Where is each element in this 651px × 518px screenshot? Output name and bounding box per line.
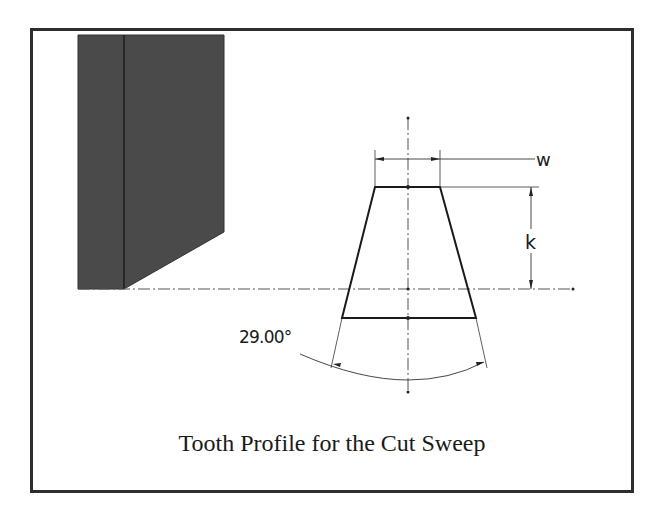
gear-blank-section [78, 35, 224, 289]
left-angle-extension [331, 318, 342, 368]
centerline-top-point [407, 117, 410, 120]
k-arrow-bottom [529, 280, 533, 289]
bottom-midpoint [406, 316, 410, 320]
top-midpoint [406, 185, 410, 189]
center-intersection [407, 288, 410, 291]
right-angle-extension [476, 318, 487, 368]
centerline-end-point [572, 288, 575, 291]
w-arrow-right [431, 157, 440, 161]
angle-dimension-label: 29.00° [239, 327, 291, 347]
k-dimension-label: k [525, 231, 536, 253]
angle-dimension-arc [300, 354, 484, 380]
w-dimension-label: w [536, 149, 551, 170]
figure-caption: Tooth Profile for the Cut Sweep [30, 430, 634, 457]
angle-arrow-left [333, 363, 341, 367]
angle-arrow-right [476, 362, 484, 366]
w-arrow-left [375, 157, 384, 161]
tooth-profile-trapezoid [342, 187, 476, 318]
centerline-bottom-point [407, 391, 410, 394]
k-arrow-top [529, 187, 533, 196]
